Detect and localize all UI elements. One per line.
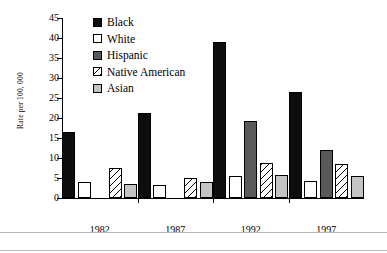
bar-asian-1987 bbox=[200, 182, 213, 198]
x-axis-label-1997: 1997 bbox=[291, 224, 361, 235]
legend-swatch-icon bbox=[93, 67, 102, 76]
legend-item-white: White bbox=[93, 31, 185, 48]
bar-native-american-1992 bbox=[260, 163, 273, 198]
bar-native-american-1982 bbox=[109, 168, 122, 198]
legend-label: Hispanic bbox=[107, 49, 148, 61]
legend-swatch-icon bbox=[93, 18, 102, 27]
x-tick bbox=[289, 198, 290, 203]
bar-black-1992 bbox=[213, 42, 226, 198]
bar-native-american-1997 bbox=[335, 164, 348, 198]
chart-legend: BlackWhiteHispanicNative AmericanAsian bbox=[93, 14, 185, 97]
legend-label: Black bbox=[107, 16, 134, 28]
y-tick-label: 35 bbox=[49, 52, 59, 63]
y-tick-label: 45 bbox=[49, 12, 59, 23]
divider-bottom bbox=[0, 250, 387, 251]
x-tick bbox=[213, 198, 214, 203]
divider-top bbox=[0, 232, 387, 233]
bar-black-1982 bbox=[62, 132, 75, 198]
legend-label: Asian bbox=[107, 82, 134, 94]
bar-chart-figure: Rate per 100, 000 051015202530354045 198… bbox=[0, 0, 387, 253]
bar-native-american-1987 bbox=[184, 178, 197, 198]
x-axis-label-1992: 1992 bbox=[216, 224, 286, 235]
legend-swatch-icon bbox=[93, 84, 102, 93]
bar-black-1987 bbox=[138, 113, 151, 198]
bar-white-1987 bbox=[153, 185, 166, 198]
y-tick-label: 5 bbox=[54, 172, 59, 183]
y-tick-label: 40 bbox=[49, 32, 59, 43]
bar-group bbox=[289, 18, 365, 198]
y-tick-label: 15 bbox=[49, 132, 59, 143]
bar-white-1982 bbox=[78, 182, 91, 198]
legend-label: White bbox=[107, 33, 135, 45]
bar-white-1997 bbox=[304, 181, 317, 198]
y-tick-label: 10 bbox=[49, 152, 59, 163]
legend-swatch-icon bbox=[93, 34, 102, 43]
legend-item-native-american: Native American bbox=[93, 64, 185, 81]
x-tick bbox=[138, 198, 139, 203]
bar-group bbox=[213, 18, 289, 198]
legend-item-asian: Asian bbox=[93, 80, 185, 97]
y-axis-title: Rate per 100, 000 bbox=[16, 53, 25, 149]
legend-item-hispanic: Hispanic bbox=[93, 47, 185, 64]
legend-item-black: Black bbox=[93, 14, 185, 31]
bar-asian-1982 bbox=[124, 184, 137, 198]
legend-label: Native American bbox=[107, 66, 185, 78]
bar-hispanic-1992 bbox=[244, 121, 257, 198]
x-axis-label-1982: 1982 bbox=[65, 224, 135, 235]
y-tick-label: 25 bbox=[49, 92, 59, 103]
x-axis-label-1987: 1987 bbox=[140, 224, 210, 235]
y-tick-label: 30 bbox=[49, 72, 59, 83]
bar-black-1997 bbox=[289, 92, 302, 198]
bar-hispanic-1997 bbox=[320, 150, 333, 198]
bar-asian-1997 bbox=[351, 176, 364, 198]
bar-asian-1992 bbox=[275, 175, 288, 198]
legend-swatch-icon bbox=[93, 51, 102, 60]
y-tick-label: 0 bbox=[54, 192, 59, 203]
bar-white-1992 bbox=[229, 176, 242, 198]
y-tick-label: 20 bbox=[49, 112, 59, 123]
